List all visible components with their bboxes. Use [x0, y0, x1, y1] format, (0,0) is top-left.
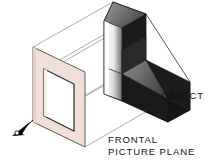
object-upper-front-highlight: [104, 21, 109, 69]
picture-plane-label-line2: PICTURE PLANE: [108, 146, 195, 157]
picture-plane-opening-thickness: [44, 69, 47, 117]
frontal-picture-plane[interactable]: [33, 47, 85, 147]
technical-illustration: OBJECT FRONTAL PICTURE PLANE: [0, 0, 213, 165]
l-shaped-step-block[interactable]: [104, 2, 190, 122]
object-label: OBJECT: [161, 90, 204, 101]
picture-plane-label-line1: FRONTAL: [108, 134, 158, 145]
picture-plane-edge-thickness: [33, 47, 36, 123]
object-lower-front-highlight: [104, 67, 109, 96]
projection-diagram: OBJECT FRONTAL PICTURE PLANE: [0, 0, 213, 165]
arrow-pivot-dot: [15, 131, 19, 135]
viewer-eye-arrow[interactable]: [12, 120, 33, 136]
